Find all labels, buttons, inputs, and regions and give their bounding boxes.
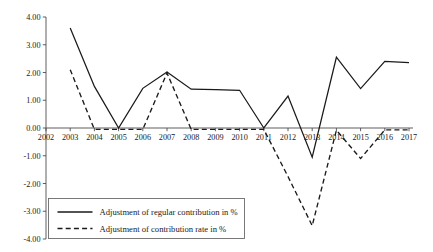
y-axis: 4.003.002.001.000.00-1.00-2.00-3.00-4.00 bbox=[23, 13, 46, 244]
y-axis-tick-label: 2.00 bbox=[26, 69, 40, 78]
x-axis-tick-label: 2014 bbox=[328, 133, 344, 142]
data-series-group bbox=[70, 28, 409, 226]
legend-label-2: Adjustment of contribution rate in % bbox=[100, 224, 227, 234]
legend-label-1: Adjustment of regular contribution in % bbox=[100, 207, 238, 217]
y-axis-tick-label: 3.00 bbox=[26, 41, 40, 50]
y-axis-tick-label: -3.00 bbox=[23, 207, 40, 216]
y-axis-tick-label: 1.00 bbox=[26, 96, 40, 105]
x-axis-tick-label: 2017 bbox=[401, 133, 417, 142]
y-axis-tick-label: -4.00 bbox=[23, 235, 40, 244]
x-axis-tick-label: 2006 bbox=[135, 133, 151, 142]
x-axis-tick-label: 2005 bbox=[110, 133, 126, 142]
x-axis-tick-label: 2015 bbox=[352, 133, 368, 142]
y-axis-tick-label: 0.00 bbox=[26, 124, 40, 133]
line-chart: 4.003.002.001.000.00-1.00-2.00-3.00-4.00… bbox=[0, 0, 433, 252]
chart-legend: Adjustment of regular contribution in %A… bbox=[49, 199, 245, 239]
y-axis-tick-label: -1.00 bbox=[23, 152, 40, 161]
x-axis-tick-label: 2007 bbox=[159, 133, 175, 142]
x-axis-tick-label: 2004 bbox=[86, 133, 102, 142]
x-axis-tick-label: 2016 bbox=[377, 133, 393, 142]
x-axis: 2002200320042005200620072008200920102011… bbox=[38, 128, 417, 142]
y-axis-tick-label: -2.00 bbox=[23, 180, 40, 189]
x-axis-tick-label: 2003 bbox=[62, 133, 78, 142]
x-axis-tick-label: 2008 bbox=[183, 133, 199, 142]
y-axis-tick-label: 4.00 bbox=[26, 13, 40, 22]
x-axis-tick-label: 2002 bbox=[38, 133, 54, 142]
x-axis-tick-label: 2012 bbox=[280, 133, 296, 142]
x-axis-tick-label: 2009 bbox=[207, 133, 223, 142]
x-axis-tick-label: 2010 bbox=[231, 133, 247, 142]
chart-canvas: 4.003.002.001.000.00-1.00-2.00-3.00-4.00… bbox=[0, 0, 433, 252]
